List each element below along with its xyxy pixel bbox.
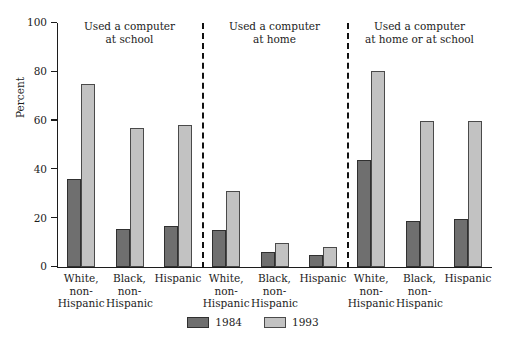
legend-item-1993: 1993 [264,316,319,328]
panel-used-at-home: Used a computer at home [202,23,347,267]
legend-item-1984: 1984 [187,316,242,328]
x-axis-line [57,267,492,268]
bar-group [116,23,144,267]
bar-1993 [130,128,144,267]
legend: 1984 1993 [0,316,506,328]
y-axis-title: Percent [14,77,26,118]
y-tick-label-0: 0 [40,261,47,272]
bar-group [67,23,95,267]
panel-used-at-school: Used a computer at school [57,23,202,267]
bar-1984 [406,221,420,267]
y-tick-label-20: 20 [34,212,47,223]
bar-group [406,23,434,267]
y-tick-label-40: 40 [34,163,47,174]
bar-1993 [275,243,289,267]
bar-1984 [67,179,81,267]
legend-swatch-1984 [187,317,209,328]
bar-1984 [116,229,130,267]
bar-1984 [212,230,226,267]
bar-1984 [261,252,275,267]
legend-swatch-1993 [264,317,286,328]
bar-group [261,23,289,267]
bar-1984 [357,160,371,267]
panel-used-at-home-or-school: Used a computer at home or at school [347,23,492,267]
y-tick-label-60: 60 [34,114,47,125]
bar-1993 [178,125,192,267]
bar-1993 [226,191,240,267]
bar-1993 [468,121,482,267]
legend-label-1984: 1984 [215,316,242,328]
bar-1993 [420,121,434,267]
x-label-hispanic: Hispanic [437,272,499,285]
legend-label-1993: 1993 [292,316,319,328]
plot-area: 020406080100 Used a computer at school U… [57,23,492,267]
panel-divider-2 [347,23,349,268]
bar-group [454,23,482,267]
bar-1993 [323,247,337,267]
y-tick-label-100: 100 [27,17,47,28]
bar-1984 [309,255,323,267]
bar-chart: Percent 020406080100 Used a computer at … [0,0,506,351]
y-tick-label-80: 80 [34,66,47,77]
panel-divider-1 [202,23,204,268]
bar-group [212,23,240,267]
bar-group [164,23,192,267]
bar-1984 [164,226,178,267]
bar-group [309,23,337,267]
bar-1993 [81,84,95,267]
bar-1993 [371,71,385,267]
bar-group [357,23,385,267]
bar-1984 [454,219,468,267]
